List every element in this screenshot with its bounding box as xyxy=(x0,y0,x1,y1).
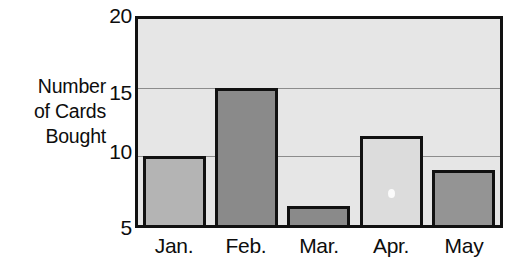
bar-apr xyxy=(360,136,423,225)
y-axis-tick-label-15: 15 xyxy=(90,82,132,103)
bar-may xyxy=(432,170,495,225)
bar-chart-figure: Number of Cards Bought 20 15 10 5 Jan.Fe… xyxy=(0,0,517,266)
x-axis-label-jan: Jan. xyxy=(138,233,210,259)
x-axis-label-apr: Apr. xyxy=(355,233,427,259)
x-axis-labels: Jan.Feb.Mar.Apr.May xyxy=(135,233,503,263)
x-axis-label-feb: Feb. xyxy=(210,233,282,259)
bar-feb xyxy=(215,88,278,225)
y-axis-tick-label-20: 20 xyxy=(90,5,132,26)
x-axis-label-mar: Mar. xyxy=(283,233,355,259)
x-axis-label-may: May xyxy=(428,233,500,259)
gridline-15 xyxy=(138,88,500,89)
scan-artifact-speck xyxy=(388,189,395,198)
plot-area xyxy=(138,19,500,225)
bar-mar xyxy=(287,206,350,225)
y-axis-tick-label-10: 10 xyxy=(90,141,132,162)
y-axis-tick-label-5: 5 xyxy=(90,217,132,238)
bar-jan xyxy=(143,156,206,225)
plot-frame xyxy=(135,16,503,228)
